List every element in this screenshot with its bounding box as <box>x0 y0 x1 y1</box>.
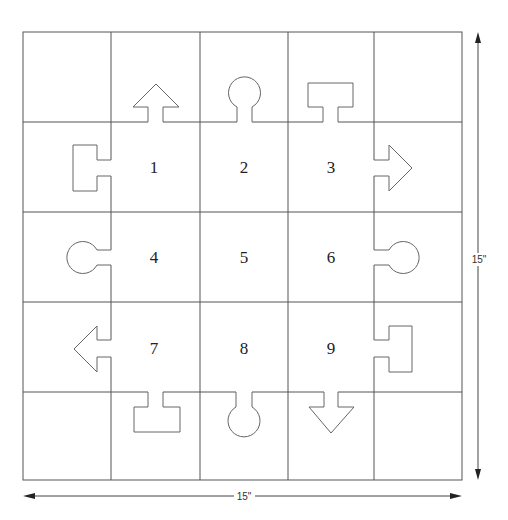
arrow-left-icon <box>74 326 111 372</box>
cell-label-5: 5 <box>240 248 249 267</box>
keyhole-right-icon <box>374 241 419 273</box>
cell-label-3: 3 <box>327 158 336 177</box>
height-dimension-label: 15" <box>472 254 487 265</box>
t-shape-left-icon <box>73 145 111 191</box>
cell-label-9: 9 <box>327 339 336 358</box>
t-shape-top-icon <box>308 83 353 122</box>
cell-label-4: 4 <box>150 248 159 267</box>
width-arrow-left-icon <box>23 493 35 499</box>
arrow-down-icon <box>309 392 354 433</box>
height-arrow-up-icon <box>475 32 481 43</box>
keyhole-bottom-icon <box>228 392 260 437</box>
t-shape-bottom-icon <box>134 392 180 432</box>
arrow-right-icon <box>374 145 412 191</box>
width-dimension-label: 15" <box>237 491 252 502</box>
cell-label-7: 7 <box>150 339 159 358</box>
cell-label-1: 1 <box>150 158 159 177</box>
cell-label-8: 8 <box>240 339 249 358</box>
cell-label-6: 6 <box>327 248 336 267</box>
cell-label-2: 2 <box>240 158 249 177</box>
width-arrow-right-icon <box>450 493 462 499</box>
keyhole-left-icon <box>67 242 111 274</box>
keyhole-top-icon <box>229 77 261 122</box>
t-shape-right-icon <box>374 326 412 372</box>
arrow-up-icon <box>133 84 179 122</box>
height-arrow-down-icon <box>475 469 481 480</box>
puzzle-grid-diagram: 1 2 3 4 5 6 7 8 9 15" 15" <box>0 0 508 520</box>
